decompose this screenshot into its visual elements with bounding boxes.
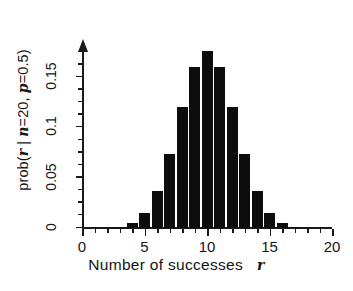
x-tick-label: 0 [62,238,102,255]
x-tick-minor [170,229,172,234]
x-tick-minor [107,229,109,234]
y-tick-minor [78,101,83,103]
x-tick-minor [295,229,297,234]
x-tick-major [332,229,334,237]
y-axis-title-prefix: prob( [15,156,31,190]
x-tick-minor [220,229,222,234]
bar [202,51,213,228]
y-tick-minor [78,189,83,191]
y-axis-n-value: =20, [15,93,31,126]
y-tick-minor [78,151,83,153]
x-tick-label: 5 [125,238,165,255]
x-axis-var-r: r [257,257,265,273]
bar [252,191,263,228]
x-tick-minor [320,229,322,234]
bar [177,107,188,228]
x-tick-major [207,229,209,237]
x-tick-minor [157,229,159,234]
bar [289,227,300,228]
y-tick-minor [78,201,83,203]
y-axis-line [82,42,84,227]
chart-figure: prob(r | n=20, p=0.5) 00.050.10.15 05101… [0,0,353,291]
y-tick-major [76,126,84,128]
y-tick-label: 0 [43,204,59,250]
bar [214,67,225,228]
x-tick-minor [95,229,97,234]
x-tick-minor [282,229,284,234]
y-axis-title-sep: | [15,137,31,149]
plot-area: 05101520 [82,36,332,228]
x-tick-minor [257,229,259,234]
y-tick-minor [78,164,83,166]
x-tick-minor [232,229,234,234]
x-tick-label: 20 [312,238,352,255]
y-tick-label: 0.05 [43,154,59,200]
x-tick-label: 10 [187,238,227,255]
x-tick-label: 15 [250,238,290,255]
bar [127,223,138,228]
x-tick-minor [195,229,197,234]
bar [264,213,275,228]
x-axis-title: Number of successesr [0,256,353,274]
y-tick-minor [78,88,83,90]
y-tick-major [76,176,84,178]
y-tick-minor [78,214,83,216]
y-axis-title: prob(r | n=20, p=0.5) [0,0,46,240]
y-axis-title-text: prob(r | n=20, p=0.5) [15,49,31,190]
x-tick-minor [307,229,309,234]
x-tick-major [82,229,84,237]
x-tick-major [145,229,147,237]
y-tick-minor [78,139,83,141]
bar [114,227,125,228]
y-tick-major [76,76,84,78]
y-tick-minor [78,113,83,115]
x-axis-title-text: Number of successes [88,256,243,273]
y-tick-label: 0.1 [43,103,59,149]
y-axis-var-n: n [15,126,31,136]
y-axis-var-p: p [15,83,31,93]
bar [227,107,238,228]
bar [239,154,250,228]
x-tick-minor [132,229,134,234]
x-tick-minor [245,229,247,234]
y-axis-var-r: r [15,149,31,156]
bar [152,191,163,228]
bar [189,67,200,228]
bar [139,213,150,228]
bar [164,154,175,228]
y-axis-p-value: =0.5) [15,49,31,83]
y-tick-minor [78,51,83,53]
x-tick-minor [120,229,122,234]
y-tick-label: 0.15 [43,53,59,99]
bar [277,223,288,228]
x-tick-major [270,229,272,237]
x-tick-minor [182,229,184,234]
y-tick-minor [78,63,83,65]
